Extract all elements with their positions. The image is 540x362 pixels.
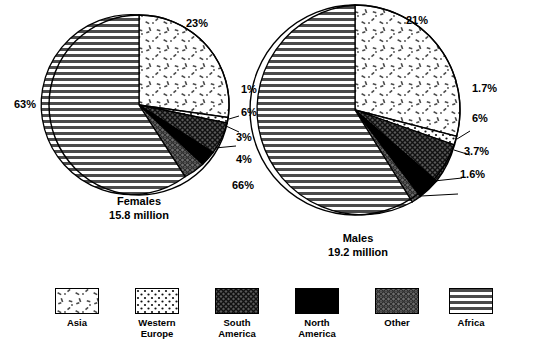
legend: Asia Western Europe South America North … bbox=[40, 288, 500, 350]
legend-label-africa: Africa bbox=[440, 318, 502, 329]
label-males-north-america: 3.7% bbox=[464, 145, 489, 158]
caption-males-total: 19.2 million bbox=[292, 246, 424, 260]
legend-swatch-western-europe bbox=[135, 288, 179, 314]
legend-item-south-america: South America bbox=[206, 288, 268, 340]
legend-label-asia: Asia bbox=[46, 318, 108, 329]
legend-item-asia: Asia bbox=[46, 288, 108, 329]
legend-item-africa: Africa bbox=[440, 288, 502, 329]
legend-swatch-south-america bbox=[215, 288, 259, 314]
legend-label-western-europe: Western Europe bbox=[126, 318, 188, 340]
pie-females bbox=[41, 15, 239, 195]
label-females-north-america: 3% bbox=[236, 131, 252, 144]
caption-females-name: Females bbox=[73, 195, 205, 209]
caption-males-name: Males bbox=[292, 232, 424, 246]
pie-males bbox=[250, 5, 470, 215]
legend-label-north-america: North America bbox=[286, 318, 348, 340]
caption-females-total: 15.8 million bbox=[73, 209, 205, 223]
legend-item-western-europe: Western Europe bbox=[126, 288, 188, 340]
chart-canvas: 23% 1% 6% 3% 4% 63% Females 15.8 million… bbox=[0, 0, 540, 362]
label-males-other: 1.6% bbox=[460, 168, 485, 181]
label-females-other: 4% bbox=[236, 153, 252, 166]
label-females-western-europe: 1% bbox=[241, 83, 257, 96]
legend-swatch-other bbox=[375, 288, 419, 314]
legend-swatch-africa bbox=[449, 288, 493, 314]
label-females-asia: 23% bbox=[186, 17, 208, 30]
label-males-africa: 66% bbox=[232, 179, 254, 192]
slice-females-asia bbox=[139, 15, 229, 118]
label-males-south-america: 6% bbox=[472, 112, 488, 125]
legend-item-north-america: North America bbox=[286, 288, 348, 340]
label-males-asia: 21% bbox=[406, 14, 428, 27]
legend-label-south-america: South America bbox=[206, 318, 268, 340]
label-females-africa: 63% bbox=[14, 98, 36, 111]
label-females-south-america: 6% bbox=[241, 106, 257, 119]
legend-swatch-north-america bbox=[295, 288, 339, 314]
legend-label-other: Other bbox=[366, 318, 428, 329]
label-males-western-europe: 1.7% bbox=[472, 82, 497, 95]
legend-swatch-asia bbox=[55, 288, 99, 314]
legend-item-other: Other bbox=[366, 288, 428, 329]
